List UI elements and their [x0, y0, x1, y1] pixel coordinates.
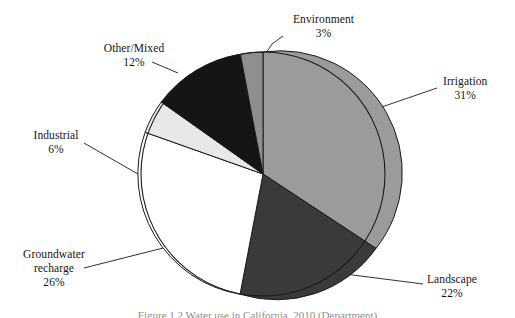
pie-label-other-mixed-value: 12%: [78, 55, 190, 69]
pie-label-groundwater-recharge-name-line2: recharge: [6, 261, 102, 275]
pie-label-groundwater-recharge-value: 26%: [6, 275, 102, 289]
pie-label-industrial-value: 6%: [12, 142, 100, 156]
leader-line-landscape: [345, 274, 423, 284]
pie-label-irrigation: Irrigation 31%: [443, 74, 487, 102]
pie-label-landscape: Landscape 22%: [427, 272, 477, 300]
pie-label-irrigation-value: 31%: [443, 88, 487, 102]
pie-label-other-mixed: Other/Mixed 12%: [78, 41, 190, 69]
pie-label-landscape-name: Landscape: [427, 272, 477, 286]
pie-label-groundwater-recharge: Groundwater recharge 26%: [6, 247, 102, 289]
pie-label-irrigation-name: Irrigation: [443, 74, 487, 88]
pie-slices: [138, 51, 402, 300]
pie-chart-figure: Environment 3% Irrigation 31% Landscape …: [0, 0, 515, 318]
pie-label-industrial: Industrial 6%: [12, 128, 100, 156]
pie-label-industrial-name: Industrial: [12, 128, 100, 142]
pie-label-landscape-value: 22%: [427, 286, 477, 300]
pie-label-other-mixed-name: Other/Mixed: [78, 41, 190, 55]
pie-label-groundwater-recharge-name-line1: Groundwater: [6, 247, 102, 261]
pie-label-environment-name: Environment: [293, 12, 354, 26]
figure-caption: Figure 1.2 Water use in California, 2010…: [0, 309, 515, 318]
pie-label-environment-value: 3%: [293, 26, 354, 40]
pie-label-environment: Environment 3%: [293, 12, 354, 40]
